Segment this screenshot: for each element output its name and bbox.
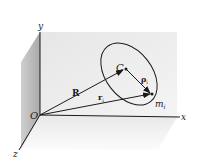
particle-label-main: m xyxy=(155,99,164,109)
rigid-body-diagram: y x z O C mi R ri ρi xyxy=(0,0,197,166)
floor-plane xyxy=(21,115,177,150)
center-of-mass-label: C xyxy=(116,62,124,73)
vector-R-label: R xyxy=(72,88,80,98)
origin-label: O xyxy=(30,110,38,121)
y-axis-label: y xyxy=(37,21,44,31)
particle-point xyxy=(151,93,154,96)
z-axis-label: z xyxy=(12,149,18,159)
center-of-mass-point xyxy=(125,68,128,71)
particle-label-sub: i xyxy=(164,103,166,110)
x-axis-label: x xyxy=(181,112,186,122)
